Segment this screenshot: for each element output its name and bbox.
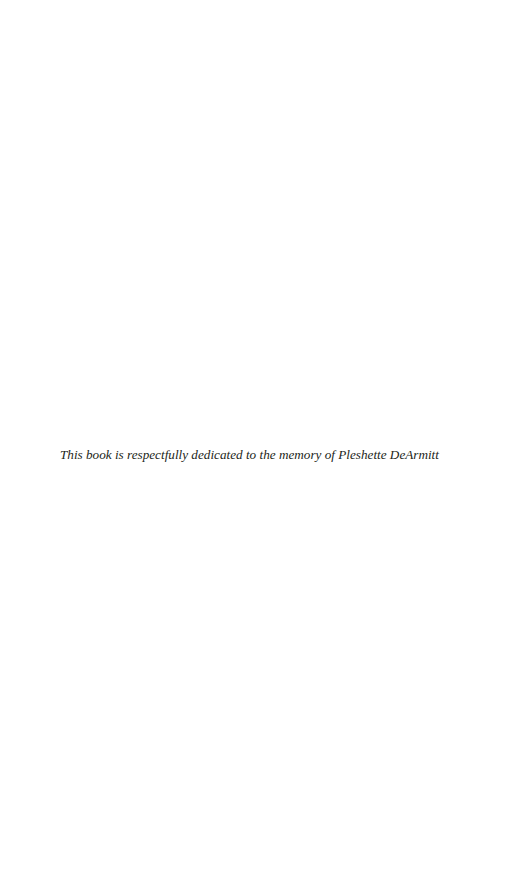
book-page: This book is respectfully dedicated to t… — [0, 0, 519, 882]
dedication-text: This book is respectfully dedicated to t… — [60, 447, 439, 463]
